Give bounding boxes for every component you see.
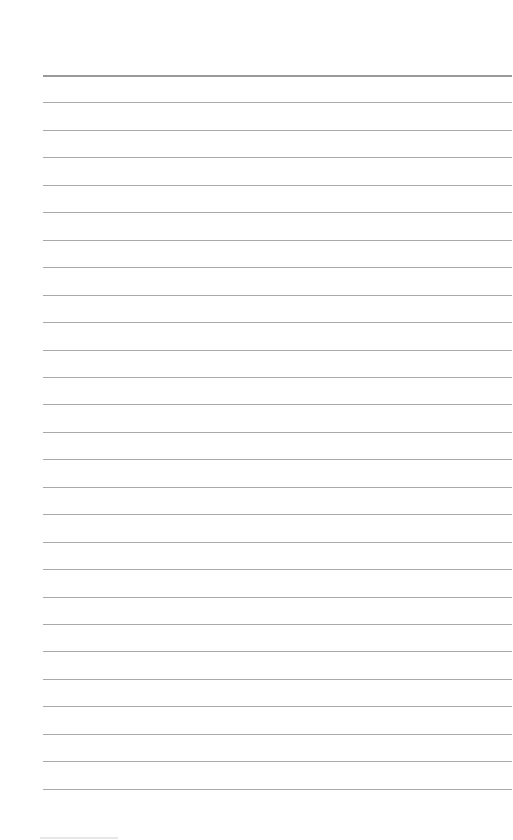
rule-line xyxy=(43,706,512,707)
rule-line xyxy=(43,350,512,351)
rule-line xyxy=(43,459,512,460)
rule-line xyxy=(43,487,512,488)
rule-line xyxy=(43,157,512,158)
page-footer-mark xyxy=(40,837,118,839)
rule-line xyxy=(43,651,512,652)
rule-line xyxy=(43,542,512,543)
top-rule-line xyxy=(43,75,512,77)
rule-line xyxy=(43,185,512,186)
rule-line xyxy=(43,295,512,296)
rule-line xyxy=(43,624,512,625)
rule-line xyxy=(43,597,512,598)
rule-line xyxy=(43,569,512,570)
rule-line xyxy=(43,212,512,213)
rule-line xyxy=(43,789,512,790)
rule-line xyxy=(43,130,512,131)
rule-line xyxy=(43,734,512,735)
rule-line xyxy=(43,267,512,268)
lined-paper-page xyxy=(0,0,513,840)
rule-line xyxy=(43,432,512,433)
rule-line xyxy=(43,761,512,762)
rule-line xyxy=(43,102,512,103)
rule-line xyxy=(43,322,512,323)
rule-line xyxy=(43,404,512,405)
rule-line xyxy=(43,377,512,378)
rule-line xyxy=(43,240,512,241)
rule-line xyxy=(43,514,512,515)
rule-line xyxy=(43,679,512,680)
